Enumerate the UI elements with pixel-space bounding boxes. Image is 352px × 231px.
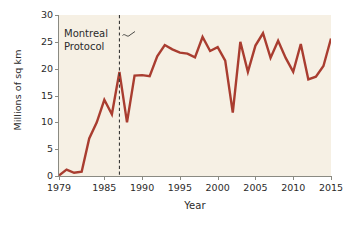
y-tick-mark [55, 149, 59, 150]
y-tick-mark [55, 69, 59, 70]
x-tick-mark [180, 176, 181, 180]
y-axis-label: Millions of sq km [10, 2, 26, 178]
x-tick-mark [293, 176, 294, 180]
x-tick-label: 2000 [198, 182, 238, 193]
x-axis-label: Year [55, 200, 335, 211]
annotation-line-2: Protocol [64, 41, 108, 54]
x-tick-label: 1990 [122, 182, 162, 193]
y-tick-mark [55, 122, 59, 123]
y-tick-label: 20 [31, 63, 53, 74]
y-tick-label: 5 [31, 143, 53, 154]
y-tick-mark [55, 15, 59, 16]
y-tick-label: 15 [31, 90, 53, 101]
y-tick-label: 10 [31, 116, 53, 127]
y-tick-label: 0 [31, 170, 53, 181]
x-tick-mark [59, 176, 60, 180]
x-tick-label: 1985 [84, 182, 124, 193]
x-axis-line [58, 176, 331, 177]
annotation-leader-icon [122, 30, 136, 42]
y-tick-label: 30 [31, 9, 53, 20]
x-tick-mark [104, 176, 105, 180]
y-tick-mark [55, 96, 59, 97]
x-tick-label: 1995 [160, 182, 200, 193]
ozone-hole-area-chart: Millions of sq km 051015202530 197919851… [0, 0, 352, 231]
annotation-line-1: Montreal [64, 28, 108, 41]
x-tick-label: 1979 [39, 182, 79, 193]
y-tick-mark [55, 42, 59, 43]
x-tick-label: 2010 [273, 182, 313, 193]
x-tick-label: 2015 [311, 182, 351, 193]
x-tick-mark [142, 176, 143, 180]
x-tick-label: 2005 [235, 182, 275, 193]
x-tick-mark [218, 176, 219, 180]
x-tick-mark [331, 176, 332, 180]
y-tick-label: 25 [31, 36, 53, 47]
x-tick-mark [255, 176, 256, 180]
montreal-protocol-annotation: Montreal Protocol [64, 28, 108, 53]
